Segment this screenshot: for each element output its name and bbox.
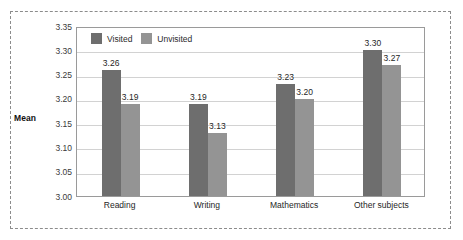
- y-axis-title: Mean: [14, 113, 36, 123]
- y-axis: 3.353.303.253.203.153.103.053.00: [32, 0, 72, 240]
- bar-rect: [102, 70, 121, 196]
- legend-label: Visited: [107, 34, 132, 44]
- legend-swatch-icon: [141, 33, 152, 44]
- bar-group: 3.303.27: [363, 50, 401, 196]
- y-axis-tick-label: 3.15: [36, 120, 72, 129]
- y-axis-tick-label: 3.35: [36, 23, 72, 32]
- bar-rect: [295, 99, 314, 196]
- bar-unvisited[interactable]: 3.20: [295, 99, 314, 196]
- bar-rect: [208, 133, 227, 196]
- bar-group: 3.193.13: [189, 104, 227, 196]
- bar-chart-figure: 3.353.303.253.203.153.103.053.00 Mean Vi…: [0, 0, 463, 240]
- bar-rect: [276, 84, 295, 196]
- bar-value-label: 3.19: [190, 93, 207, 102]
- bar-rect: [189, 104, 208, 196]
- bar-visited[interactable]: 3.26: [102, 70, 121, 196]
- bar-visited[interactable]: 3.30: [363, 50, 382, 196]
- x-axis-tick-label: Other subjects: [338, 200, 425, 210]
- bar-value-label: 3.27: [384, 54, 401, 63]
- bar-group: 3.233.20: [276, 84, 314, 196]
- legend-swatch-icon: [91, 33, 102, 44]
- bar-value-label: 3.26: [103, 59, 120, 68]
- bar-value-label: 3.20: [296, 88, 313, 97]
- bar-visited[interactable]: 3.23: [276, 84, 295, 196]
- y-axis-tick-label: 3.00: [36, 193, 72, 202]
- bar-value-label: 3.23: [277, 73, 294, 82]
- y-axis-tick-label: 3.05: [36, 168, 72, 177]
- y-axis-tick-label: 3.30: [36, 47, 72, 56]
- y-axis-tick-label: 3.25: [36, 71, 72, 80]
- legend-label: Unvisited: [157, 34, 192, 44]
- bar-rect: [363, 50, 382, 196]
- legend-item-visited[interactable]: Visited: [91, 33, 132, 44]
- chart-legend: VisitedUnvisited: [91, 33, 192, 44]
- bar-value-label: 3.19: [122, 93, 139, 102]
- x-axis-tick-label: Mathematics: [251, 200, 338, 210]
- bar-rect: [382, 65, 401, 196]
- bar-unvisited[interactable]: 3.13: [208, 133, 227, 196]
- bar-rect: [121, 104, 140, 196]
- x-axis-tick-label: Reading: [76, 200, 163, 210]
- plot-area: VisitedUnvisited 3.263.193.193.133.233.2…: [76, 27, 425, 197]
- x-axis-tick-label: Writing: [163, 200, 250, 210]
- bar-visited[interactable]: 3.19: [189, 104, 208, 196]
- bar-group: 3.263.19: [102, 70, 140, 196]
- bar-value-label: 3.13: [209, 122, 226, 131]
- bar-unvisited[interactable]: 3.19: [121, 104, 140, 196]
- y-axis-tick-label: 3.10: [36, 144, 72, 153]
- y-axis-tick-label: 3.20: [36, 95, 72, 104]
- legend-item-unvisited[interactable]: Unvisited: [141, 33, 192, 44]
- bar-unvisited[interactable]: 3.27: [382, 65, 401, 196]
- bar-value-label: 3.30: [365, 39, 382, 48]
